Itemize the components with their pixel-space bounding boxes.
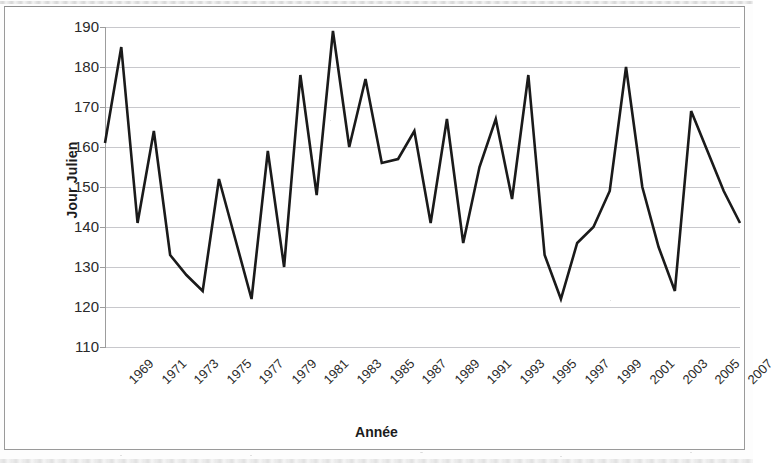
plot-area — [105, 27, 740, 347]
scan-speck — [200, 380, 201, 381]
y-axis-tick-mark — [100, 347, 106, 348]
scan-speck — [330, 120, 331, 121]
scan-speck — [690, 452, 692, 453]
gridline — [105, 347, 740, 348]
y-axis-tick-mark — [100, 27, 106, 28]
y-axis-tick-mark — [100, 67, 106, 68]
y-axis-tick-mark — [100, 107, 106, 108]
y-axis-tick-mark — [100, 307, 106, 308]
y-axis-tick-mark — [100, 187, 106, 188]
scan-speck — [420, 452, 423, 453]
y-axis-tick-label: 190 — [55, 19, 99, 34]
scan-noise-top — [0, 1, 753, 4]
y-axis-tick-mark — [100, 147, 106, 148]
series-polyline — [105, 31, 740, 299]
scan-speck — [250, 455, 252, 456]
x-axis-tick-label: 2007 — [744, 356, 775, 387]
x-axis-title: Année — [0, 424, 753, 440]
y-axis-title: Jour Julien — [64, 90, 80, 270]
scan-speck — [560, 456, 562, 457]
scan-speck — [610, 300, 611, 301]
scan-speck — [120, 455, 122, 456]
data-series-line — [105, 27, 740, 347]
y-axis-tick-label: 110 — [55, 339, 99, 354]
y-axis-tick-mark — [100, 267, 106, 268]
scan-noise-bottom — [0, 459, 753, 463]
y-axis-tick-mark — [100, 227, 106, 228]
y-axis-tick-label: 180 — [55, 59, 99, 74]
y-axis-tick-label: 120 — [55, 299, 99, 314]
